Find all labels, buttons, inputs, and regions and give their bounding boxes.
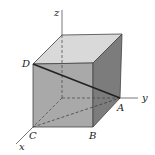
point-A-label: A [117,103,124,113]
point-C-label: C [29,131,37,141]
z-axis-label: z [54,8,59,18]
x-axis-label: x [19,142,25,152]
cube-diagram [0,0,155,155]
point-B-label: B [89,131,96,141]
front-face [33,63,93,127]
y-axis-label: y [142,93,148,103]
point-D-label: D [22,59,30,69]
